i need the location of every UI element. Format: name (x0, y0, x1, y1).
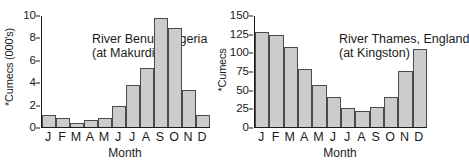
y-tick-label: 50 (236, 85, 249, 97)
y-tick-mark (36, 128, 40, 129)
x-axis-ticks: JFMAMJJASOND (254, 131, 426, 144)
bar (182, 90, 196, 127)
bar (140, 68, 154, 127)
bar (42, 115, 56, 127)
bar (298, 69, 312, 127)
x-tick-label: F (55, 131, 69, 144)
bar (126, 85, 140, 127)
x-tick-label: O (383, 131, 397, 144)
x-tick-label: J (125, 131, 139, 144)
bar (56, 118, 70, 127)
bar (327, 97, 341, 127)
bar (98, 118, 112, 127)
x-tick-label: N (397, 131, 411, 144)
chart-panel-river-thames: *Cumecs 0255075100125150 River Thames, E… (215, 0, 431, 162)
x-tick-label: J (326, 131, 340, 144)
y-tick-mark (36, 60, 40, 61)
x-tick-label: F (268, 131, 282, 144)
x-tick-label: O (167, 131, 181, 144)
x-tick-label: A (354, 131, 368, 144)
x-axis-ticks: JFMAMJJASOND (41, 131, 209, 144)
bar (269, 35, 283, 127)
x-tick-label: J (254, 131, 268, 144)
bar (312, 85, 326, 127)
y-tick-mark (249, 72, 253, 73)
y-tick-label: 75 (236, 66, 249, 78)
x-tick-label: N (181, 131, 195, 144)
bar (284, 47, 298, 127)
y-tick-mark (36, 105, 40, 106)
y-tick-mark (36, 16, 40, 17)
bar (370, 107, 384, 127)
plot-area: River Benue, Nigeria (at Makurdi) (41, 16, 210, 128)
x-tick-label: J (41, 131, 55, 144)
x-tick-label: M (97, 131, 111, 144)
bar (255, 32, 269, 127)
y-tick-label: 150 (230, 10, 249, 22)
y-tick-mark (249, 128, 253, 129)
y-tick-mark (249, 53, 253, 54)
y-tick-label: 100 (230, 48, 249, 60)
x-tick-label: D (195, 131, 209, 144)
x-tick-label: S (153, 131, 167, 144)
bar (154, 18, 168, 127)
y-tick-mark (249, 34, 253, 35)
x-tick-label: S (369, 131, 383, 144)
bar (398, 71, 412, 127)
bar-series (42, 16, 210, 127)
bar (84, 120, 98, 127)
bar (168, 28, 182, 127)
bar (70, 123, 84, 127)
bar (112, 106, 126, 127)
y-tick-label: 25 (236, 104, 249, 116)
x-tick-label: D (412, 131, 426, 144)
x-tick-label: J (111, 131, 125, 144)
x-axis-label: Month (254, 146, 426, 160)
y-tick-mark (249, 109, 253, 110)
x-axis-label: Month (41, 146, 209, 160)
plot-area: River Thames, England (at Kingston) (254, 16, 427, 128)
y-tick-mark (249, 16, 253, 17)
y-tick-label: 125 (230, 29, 249, 41)
x-tick-label: A (83, 131, 97, 144)
y-tick-mark (36, 38, 40, 39)
bar-series (255, 16, 427, 127)
chart-panel-river-benue: *Cumecs (000's) 0246810 River Benue, Nig… (0, 0, 215, 162)
x-tick-label: M (311, 131, 325, 144)
bar (196, 115, 210, 127)
bar (384, 97, 398, 127)
bar (341, 108, 355, 127)
x-tick-label: J (340, 131, 354, 144)
x-tick-label: A (139, 131, 153, 144)
bar (355, 111, 369, 127)
x-tick-label: A (297, 131, 311, 144)
y-axis-ticks: 0246810 (14, 0, 40, 130)
y-tick-mark (36, 83, 40, 84)
y-tick-mark (249, 90, 253, 91)
x-tick-label: M (69, 131, 83, 144)
y-tick-label: 10 (23, 10, 36, 22)
x-tick-label: M (283, 131, 297, 144)
bar (413, 49, 427, 127)
y-axis-ticks: 0255075100125150 (227, 0, 253, 130)
